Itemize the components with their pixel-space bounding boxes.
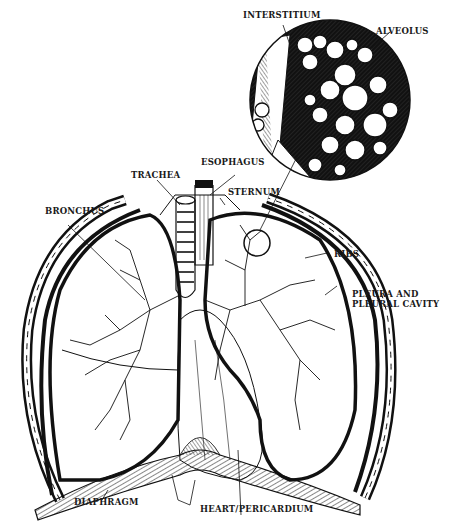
label-diaphragm: DIAPHRAGM — [74, 497, 139, 507]
label-ribs: RIBS — [334, 249, 359, 259]
bronchial-tree-right — [70, 240, 180, 440]
trachea-shape — [176, 196, 195, 298]
label-pleura-line2: PLEURAL CAVITY — [352, 299, 439, 309]
label-heart-pericardium: HEART/PERICARDIUM — [200, 504, 313, 514]
label-bronchus: BRONCHUS — [45, 206, 104, 216]
right-lung — [50, 215, 180, 480]
label-pleura-line1: PLEURA AND — [352, 289, 419, 299]
left-lung — [205, 213, 356, 480]
alveoli-inset — [245, 20, 410, 200]
label-alveolus: ALVEOLUS — [376, 26, 429, 36]
label-sternum: STERNUM — [228, 187, 280, 197]
label-esophagus: ESOPHAGUS — [201, 157, 265, 167]
label-interstitium: INTERSTITIUM — [243, 10, 321, 20]
lung-anatomy-diagram — [0, 0, 453, 531]
label-trachea: TRACHEA — [131, 170, 180, 180]
